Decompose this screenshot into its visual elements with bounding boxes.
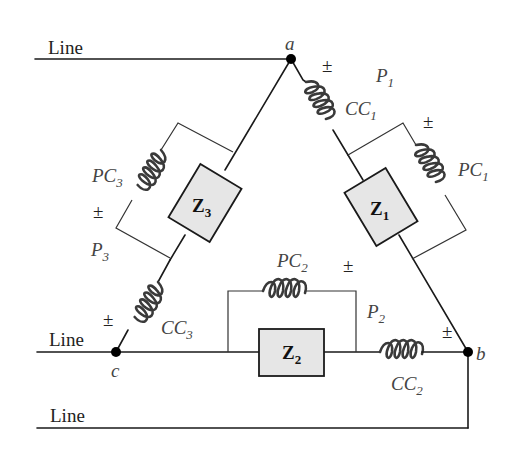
node-a-label: a bbox=[285, 33, 295, 54]
pc1-label: PC1 bbox=[457, 159, 489, 184]
polarity-mark-cc3: ± bbox=[103, 309, 113, 330]
line-label-top: Line bbox=[48, 37, 83, 58]
potential-coil-1 bbox=[411, 139, 448, 185]
pc3-label: PC3 bbox=[91, 165, 123, 190]
branch-b-c bbox=[228, 279, 468, 376]
line-label-middle: Line bbox=[49, 329, 84, 350]
node-a-dot bbox=[286, 54, 296, 64]
impedance-z3 bbox=[168, 164, 241, 242]
node-c-dot bbox=[111, 347, 121, 357]
potential-coil-3 bbox=[134, 147, 171, 193]
polarity-mark-cc1: ± bbox=[322, 55, 332, 76]
polarity-mark-pc3: ± bbox=[93, 201, 103, 222]
node-b-dot bbox=[463, 347, 473, 357]
node-c-label: c bbox=[111, 360, 120, 381]
current-coil-1 bbox=[301, 76, 338, 122]
polarity-mark-pc2: ± bbox=[343, 255, 353, 276]
cc3-label: CC3 bbox=[161, 317, 193, 342]
pc2-label: PC2 bbox=[276, 250, 308, 275]
p3-label: P3 bbox=[90, 239, 110, 264]
cc1-label: CC1 bbox=[345, 98, 377, 123]
potential-coil-2 bbox=[263, 279, 306, 297]
line-label-bottom: Line bbox=[50, 405, 85, 426]
p1-label: P1 bbox=[375, 65, 394, 90]
polarity-mark-cc2: ± bbox=[442, 321, 452, 342]
node-b-label: b bbox=[476, 343, 486, 364]
delta-wattmeter-diagram: Line Line Line a b c Z1 Z3 Z2 P1 CC1 PC1… bbox=[0, 0, 517, 456]
cc2-label: CC2 bbox=[391, 373, 423, 398]
polarity-mark-pc1: ± bbox=[423, 111, 433, 132]
p2-label: P2 bbox=[366, 301, 386, 326]
current-coil-2 bbox=[380, 340, 423, 358]
